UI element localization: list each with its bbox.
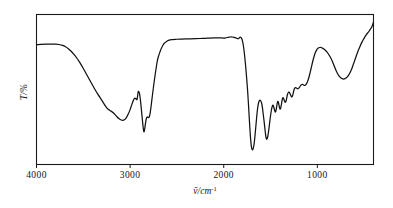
x-axis-title-base: ṽ/cm: [193, 186, 211, 196]
x-axis-title-exponent: -1: [211, 185, 216, 192]
x-axis-title: ṽ/cm-1: [193, 185, 216, 196]
spectrum-canvas: 4000300020001000 ṽ/cm-1 T/%: [0, 0, 393, 208]
x-tick-label: 1000: [307, 170, 328, 180]
x-axis-ticks: 4000300020001000: [26, 165, 327, 180]
y-axis-title: T/%: [19, 84, 29, 100]
x-tick-label: 2000: [213, 170, 234, 180]
plot-frame: [37, 15, 374, 165]
ir-spectrum-figure: 4000300020001000 ṽ/cm-1 T/%: [0, 0, 393, 208]
spectrum-trace: [37, 22, 374, 150]
x-tick-label: 4000: [26, 170, 47, 180]
x-tick-label: 3000: [120, 170, 141, 180]
